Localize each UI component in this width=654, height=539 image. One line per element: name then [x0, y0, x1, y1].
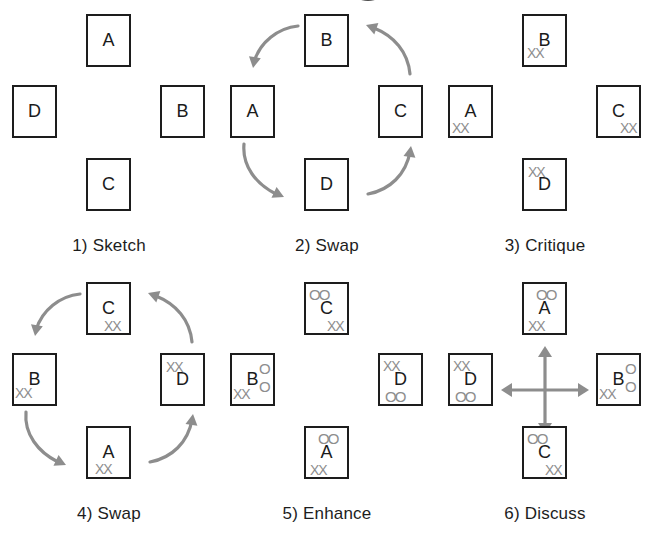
critique-mark: XX	[453, 359, 470, 373]
card-a[interactable]: AXX	[448, 85, 493, 138]
card-letter: A	[88, 16, 129, 65]
card-c[interactable]: COOXX	[304, 282, 349, 335]
panel-caption: 4) Swap	[0, 504, 218, 524]
panel-stage: BXXAXXCXXDXX	[436, 8, 654, 236]
panel-stage: COOXXBOOXXDXXOOAOOXX	[218, 276, 436, 504]
panel-enhance-5: COOXXBOOXXDXXOOAOOXX5) Enhance	[218, 276, 436, 539]
panel-sketch-1: ADBC1) Sketch	[0, 8, 218, 273]
card-c[interactable]: CXX	[86, 282, 131, 335]
process-diagram: ADBC1) SketchBACD2) SwapBXXAXXCXXDXX3) C…	[0, 0, 654, 539]
card-a[interactable]: AXX	[86, 426, 131, 479]
critique-mark: XX	[452, 121, 469, 135]
card-a[interactable]: A	[230, 85, 275, 138]
critique-mark: XX	[599, 387, 616, 401]
card-b[interactable]: BXX	[522, 14, 567, 67]
card-b[interactable]: BOOXX	[230, 353, 275, 406]
card-b[interactable]: BXX	[12, 353, 57, 406]
panel-caption: 1) Sketch	[0, 236, 218, 256]
card-a[interactable]: A	[86, 14, 131, 67]
card-a[interactable]: AOOXX	[304, 426, 349, 479]
card-b[interactable]: B	[304, 14, 349, 67]
critique-mark: XX	[528, 319, 545, 333]
critique-mark: XX	[104, 319, 121, 333]
enhance-mark: OO	[455, 389, 474, 404]
panel-caption: 5) Enhance	[218, 504, 436, 524]
cropped-title-fragment	[360, 0, 376, 1]
card-d[interactable]: DXX	[160, 353, 205, 406]
card-b[interactable]: B	[160, 85, 205, 138]
card-d[interactable]: DXXOO	[448, 353, 493, 406]
card-d[interactable]: DXXOO	[378, 353, 423, 406]
card-letter: C	[380, 87, 421, 136]
card-letter: D	[14, 87, 55, 136]
panel-stage: BACD	[218, 8, 436, 236]
card-c[interactable]: COOXX	[522, 426, 567, 479]
card-letter: B	[162, 87, 203, 136]
card-c[interactable]: C	[378, 85, 423, 138]
panel-swap-2: BACD2) Swap	[218, 8, 436, 273]
card-letter: A	[232, 87, 273, 136]
enhance-mark: O	[625, 361, 635, 376]
card-c[interactable]: CXX	[596, 85, 641, 138]
critique-mark: XX	[233, 387, 250, 401]
panel-swap-4: CXXBXXDXXAXX4) Swap	[0, 276, 218, 539]
card-letter: C	[88, 160, 129, 209]
panel-discuss-6: AOOXXDXXOOBOOXXCOOXX6) Discuss	[436, 276, 654, 539]
enhance-mark: O	[259, 361, 269, 376]
panel-stage: ADBC	[0, 8, 218, 236]
panel-critique-3: BXXAXXCXXDXX3) Critique	[436, 8, 654, 273]
enhance-mark: OO	[536, 287, 555, 302]
card-letter: D	[306, 160, 347, 209]
enhance-mark: O	[259, 379, 269, 394]
enhance-mark: OO	[527, 431, 546, 446]
enhance-mark: OO	[385, 389, 404, 404]
card-a[interactable]: AOOXX	[522, 282, 567, 335]
critique-mark: XX	[327, 319, 344, 333]
card-d[interactable]: D	[304, 158, 349, 211]
card-d[interactable]: DXX	[522, 158, 567, 211]
critique-mark: XX	[527, 46, 544, 60]
critique-mark: XX	[383, 359, 400, 373]
critique-mark: XX	[545, 463, 562, 477]
card-letter: B	[306, 16, 347, 65]
card-b[interactable]: BOOXX	[596, 353, 641, 406]
critique-mark: XX	[620, 121, 637, 135]
panel-caption: 6) Discuss	[436, 504, 654, 524]
critique-mark: XX	[528, 165, 545, 179]
panel-caption: 3) Critique	[436, 236, 654, 256]
card-c[interactable]: C	[86, 158, 131, 211]
critique-mark: XX	[95, 462, 112, 476]
card-d[interactable]: D	[12, 85, 57, 138]
critique-mark: XX	[310, 463, 327, 477]
enhance-mark: O	[625, 379, 635, 394]
critique-mark: XX	[15, 386, 32, 400]
enhance-mark: OO	[318, 431, 337, 446]
critique-mark: XX	[166, 360, 183, 374]
panel-stage: AOOXXDXXOOBOOXXCOOXX	[436, 276, 654, 504]
panel-stage: CXXBXXDXXAXX	[0, 276, 218, 504]
panel-caption: 2) Swap	[218, 236, 436, 256]
enhance-mark: OO	[309, 287, 328, 302]
